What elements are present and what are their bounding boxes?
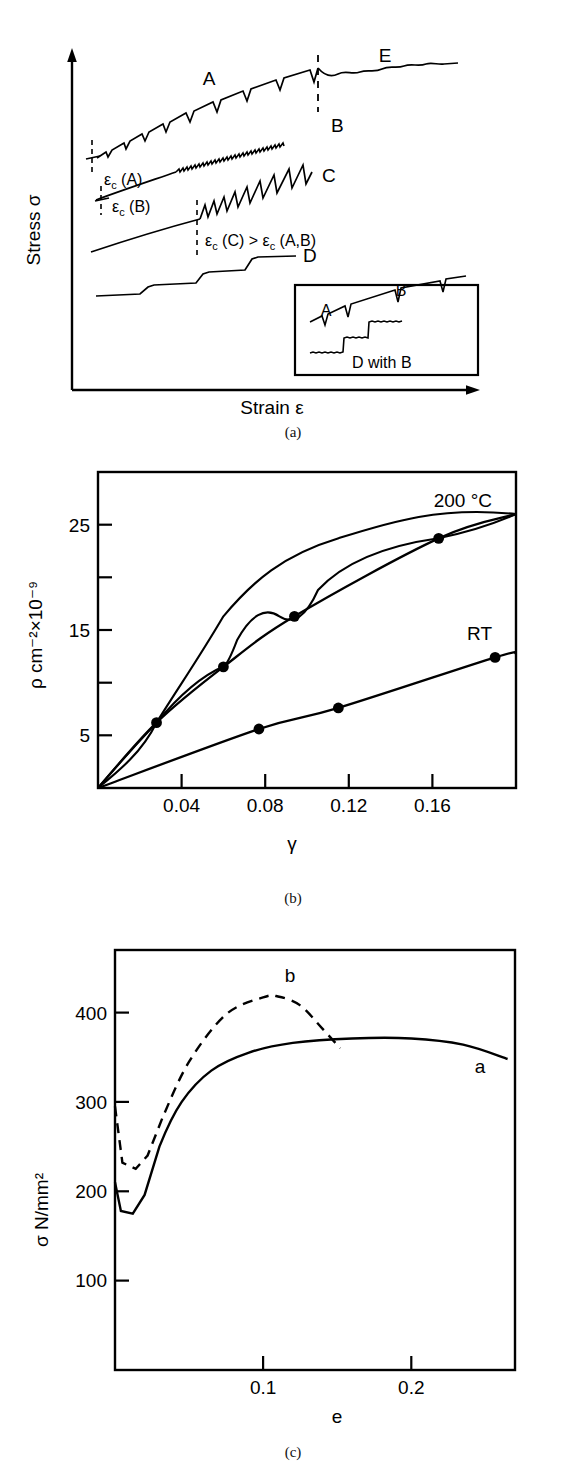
panel-b-ylabel: ρ cm⁻²×10⁻⁹ xyxy=(25,581,46,689)
series-200c-line xyxy=(98,512,516,788)
curve-c-smooth xyxy=(91,219,200,252)
panel-c-ylabel-text: σ N/mm² xyxy=(31,1173,52,1247)
series-200c-line-smooth xyxy=(98,514,516,788)
curve-c-label-a: a xyxy=(475,1056,486,1077)
curve-d-trace xyxy=(96,256,296,296)
epsc-b-annotation: εc (B) xyxy=(112,198,150,218)
inset-label-d-with-b: D with B xyxy=(352,354,412,371)
curve-c-label: C xyxy=(322,165,336,186)
panel-c-caption: (c) xyxy=(0,1444,586,1461)
curve-b-serrated xyxy=(176,143,284,172)
panel-b-plot: 5 15 25 0.04 0.08 0.12 0.16 xyxy=(0,450,586,890)
curve-c-a xyxy=(115,1038,508,1214)
panel-c-plot: 100 200 300 400 0.1 0.2 a b xyxy=(0,920,586,1440)
inset-label-b: B xyxy=(396,282,407,299)
epsc-a-annotation: εc (A) xyxy=(104,171,142,191)
figure-root: A E B C D εc (A) εc (B) εc (C) > εc (A,B… xyxy=(0,0,586,1478)
panel-c-xtick-01: 0.1 xyxy=(250,1377,276,1398)
panel-b-xlabel: γ xyxy=(287,833,297,854)
curve-e-label: E xyxy=(379,45,392,66)
panel-b-yticks: 5 15 25 xyxy=(69,515,112,746)
panel-c-ytick-200: 200 xyxy=(75,1181,107,1202)
panel-a: A E B C D εc (A) εc (B) εc (C) > εc (A,B… xyxy=(0,0,586,450)
data-point xyxy=(151,717,162,728)
panel-b-ytick-15: 15 xyxy=(69,620,90,641)
panel-b-xticks: 0.04 0.08 0.12 0.16 xyxy=(163,774,451,816)
data-point xyxy=(218,661,229,672)
data-point xyxy=(254,724,265,735)
panel-c: 100 200 300 400 0.1 0.2 a b xyxy=(0,920,586,1478)
panel-b-xtick-012: 0.12 xyxy=(330,795,367,816)
curve-a-label: A xyxy=(203,68,216,89)
panel-c-ytick-100: 100 xyxy=(75,1270,107,1291)
panel-b: 5 15 25 0.04 0.08 0.12 0.16 xyxy=(0,450,586,920)
panel-b-ytick-25: 25 xyxy=(69,515,90,536)
data-point xyxy=(333,703,344,714)
curve-c-label-b: b xyxy=(285,965,296,986)
panel-b-caption: (b) xyxy=(0,890,586,907)
panel-b-frame xyxy=(98,472,516,788)
panel-c-xlabel: e xyxy=(332,1406,343,1427)
panel-c-frame xyxy=(115,950,515,1370)
data-point xyxy=(433,533,444,544)
epsc-c-annotation: εc (C) > εc (A,B) xyxy=(205,232,316,252)
curve-c-b xyxy=(115,995,340,1169)
panel-b-xtick-016: 0.16 xyxy=(414,795,451,816)
panel-a-ylabel: Stress σ xyxy=(23,194,44,265)
curve-c-serrated xyxy=(200,165,312,219)
series-200c-markers xyxy=(151,533,444,728)
series-rt-label: RT xyxy=(467,623,492,644)
panel-a-inset: A B D with B xyxy=(295,276,478,375)
panel-b-ytick-5: 5 xyxy=(79,725,90,746)
data-point xyxy=(289,611,300,622)
panel-c-ytick-400: 400 xyxy=(75,1003,107,1024)
panel-a-xlabel: Strain ε xyxy=(240,397,304,418)
series-200c-label: 200 °C xyxy=(434,490,492,511)
series-200c-trace xyxy=(98,514,516,788)
inset-label-a: A xyxy=(321,302,332,319)
panel-c-xtick-02: 0.2 xyxy=(398,1377,424,1398)
panel-a-caption: (a) xyxy=(0,424,586,441)
panel-c-ytick-300: 300 xyxy=(75,1092,107,1113)
panel-a-plot: A E B C D εc (A) εc (B) εc (C) > εc (A,B… xyxy=(0,0,586,420)
panel-b-xtick-004: 0.04 xyxy=(163,795,200,816)
data-point xyxy=(490,652,501,663)
series-rt-markers xyxy=(254,652,501,734)
panel-c-ylabel: σ N/mm² xyxy=(31,1173,52,1247)
panel-c-xticks: 0.1 0.2 xyxy=(250,1356,425,1398)
curve-b-label: B xyxy=(331,115,344,136)
panel-b-xtick-008: 0.08 xyxy=(247,795,284,816)
